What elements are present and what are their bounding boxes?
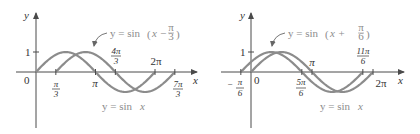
svg-text:y = sin: y = sin <box>288 27 319 39</box>
figure: y x 0 1 π 3 π 4π 3 2π 7π 3 y = sin ( x −… <box>0 0 420 134</box>
left-shifted-annotation: y = sin ( x − π 3 ) <box>94 21 180 46</box>
right-shifted-annotation: y = sin ( x + π 6 ) <box>272 21 370 46</box>
svg-text:π: π <box>238 77 243 87</box>
right-annotation-arrow <box>272 33 285 46</box>
svg-text:6: 6 <box>299 88 304 98</box>
svg-text:y = sin: y = sin <box>110 27 141 39</box>
left-tick-pi: π <box>92 77 98 89</box>
svg-text:3: 3 <box>175 89 181 99</box>
svg-text:x: x <box>357 100 363 112</box>
left-base-annotation: y = sin x <box>102 100 145 112</box>
left-y-label: y <box>23 9 29 21</box>
left-tick-pi-over-3: π 3 <box>52 79 60 99</box>
svg-text:x −: x − <box>151 27 167 39</box>
left-origin-label: 0 <box>24 74 30 86</box>
svg-text:7π: 7π <box>173 79 183 89</box>
svg-text:11π: 11π <box>357 46 370 56</box>
right-tick-pi: π <box>309 56 315 68</box>
left-tick-7pi-over-3: 7π 3 <box>173 79 183 99</box>
svg-text:3: 3 <box>53 89 59 99</box>
svg-text:y = sin: y = sin <box>320 100 351 112</box>
left-x-label: x <box>192 74 198 86</box>
right-tick-11pi-over-6: 11π 6 <box>357 46 370 66</box>
svg-text:): ) <box>176 28 180 41</box>
svg-text:5π: 5π <box>296 77 306 87</box>
left-one-label: 1 <box>25 46 31 58</box>
right-y-label: y <box>239 9 245 21</box>
svg-text:(: ( <box>147 28 151 41</box>
right-x-label: x <box>397 74 403 86</box>
svg-text:4π: 4π <box>111 46 121 56</box>
right-base-annotation: y = sin x <box>320 100 363 112</box>
left-annotation-arrow <box>94 33 107 46</box>
right-tick-2pi: 2π <box>375 77 387 89</box>
right-origin-label: 0 <box>254 74 260 86</box>
svg-text:y = sin: y = sin <box>102 100 133 112</box>
svg-text:3: 3 <box>168 30 174 42</box>
svg-text:6: 6 <box>238 88 243 98</box>
svg-text:π: π <box>54 79 59 89</box>
right-tick-neg-pi-over-6: − π 6 <box>227 77 244 98</box>
svg-text:): ) <box>366 28 370 41</box>
svg-text:6: 6 <box>358 30 364 42</box>
right-tick-5pi-over-6: 5π 6 <box>296 77 306 98</box>
svg-text:x: x <box>139 100 145 112</box>
left-tick-2pi: 2π <box>150 55 162 67</box>
svg-text:6: 6 <box>361 56 366 66</box>
svg-text:3: 3 <box>113 56 119 66</box>
svg-text:−: − <box>227 79 233 89</box>
left-tick-4pi-over-3: 4π 3 <box>111 46 121 66</box>
left-chart: y x 0 1 π 3 π 4π 3 2π 7π 3 y = sin ( x −… <box>16 9 198 128</box>
right-chart: y x 0 1 − π 6 5π 6 π 11π 6 2π y = sin ( … <box>221 9 404 128</box>
svg-text:(: ( <box>325 28 329 41</box>
right-one-label: 1 <box>240 46 246 58</box>
svg-text:x +: x + <box>329 27 345 39</box>
